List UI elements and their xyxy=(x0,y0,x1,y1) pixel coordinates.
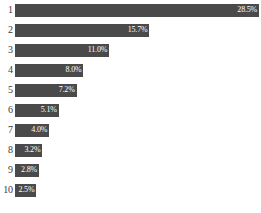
bar-track: 5.1% xyxy=(15,104,261,117)
bar-value-label: 8.0% xyxy=(66,66,84,74)
bar: 7.2% xyxy=(15,84,77,97)
category-label: 3 xyxy=(0,45,14,55)
bar-value-label: 5.1% xyxy=(41,106,59,114)
bar: 8.0% xyxy=(15,64,83,77)
bar-row: 128.5% xyxy=(0,0,261,20)
bar-row: 92.8% xyxy=(0,160,261,180)
category-label: 8 xyxy=(0,145,14,155)
bar-track: 11.0% xyxy=(15,44,261,57)
bar-row: 48.0% xyxy=(0,60,261,80)
bar-track: 4.0% xyxy=(15,124,261,137)
bar-track: 7.2% xyxy=(15,84,261,97)
bar-track: 15.7% xyxy=(15,24,261,37)
category-label: 5 xyxy=(0,85,14,95)
bar: 28.5% xyxy=(15,4,259,17)
bar-track: 3.2% xyxy=(15,144,261,157)
horizontal-bar-chart: 128.5%215.7%311.0%48.0%57.2%65.1%74.0%83… xyxy=(0,0,261,213)
bar: 2.5% xyxy=(15,184,36,197)
bar-row: 57.2% xyxy=(0,80,261,100)
bar-value-label: 11.0% xyxy=(88,46,109,54)
bar: 4.0% xyxy=(15,124,49,137)
category-label: 1 xyxy=(0,5,14,15)
category-label: 7 xyxy=(0,125,14,135)
category-label: 10 xyxy=(0,185,14,195)
bar-value-label: 28.5% xyxy=(237,6,259,14)
bar-row: 102.5% xyxy=(0,180,261,200)
bar-row: 311.0% xyxy=(0,40,261,60)
bar: 15.7% xyxy=(15,24,149,37)
category-label: 9 xyxy=(0,165,14,175)
bar-row: 65.1% xyxy=(0,100,261,120)
bar-track: 8.0% xyxy=(15,64,261,77)
bar-value-label: 4.0% xyxy=(31,126,49,134)
category-label: 6 xyxy=(0,105,14,115)
bar: 3.2% xyxy=(15,144,42,157)
bar-track: 2.8% xyxy=(15,164,261,177)
bar-value-label: 15.7% xyxy=(128,26,150,34)
bar: 11.0% xyxy=(15,44,109,57)
bar-value-label: 2.5% xyxy=(19,186,37,194)
bar-value-label: 2.8% xyxy=(21,166,39,174)
category-label: 4 xyxy=(0,65,14,75)
bar-value-label: 7.2% xyxy=(59,86,77,94)
bar-track: 28.5% xyxy=(15,4,261,17)
bar-row: 83.2% xyxy=(0,140,261,160)
bar: 5.1% xyxy=(15,104,59,117)
category-label: 2 xyxy=(0,25,14,35)
bar-track: 2.5% xyxy=(15,184,261,197)
bar-row: 74.0% xyxy=(0,120,261,140)
bar-value-label: 3.2% xyxy=(25,146,43,154)
bar-row: 215.7% xyxy=(0,20,261,40)
bar: 2.8% xyxy=(15,164,39,177)
